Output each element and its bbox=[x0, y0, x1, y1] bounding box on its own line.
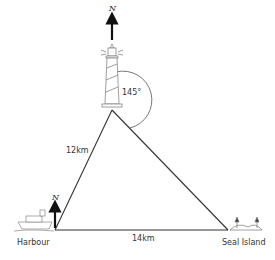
bearing-diagram: N N 145° 12km 14km Harbour Seal Island bbox=[0, 0, 275, 260]
north-label: N bbox=[109, 4, 116, 13]
edge-label-12km: 12km bbox=[66, 146, 89, 155]
diagram-canvas bbox=[0, 0, 275, 260]
island-icon bbox=[230, 217, 262, 230]
ship-icon bbox=[14, 210, 54, 231]
edge-label-14km: 14km bbox=[132, 234, 155, 243]
lighthouse-icon bbox=[101, 44, 123, 107]
edge-harbour-lighthouse bbox=[55, 110, 112, 230]
north-label: N bbox=[52, 193, 59, 202]
angle-label: 145° bbox=[122, 88, 141, 97]
seal-island-label: Seal Island bbox=[222, 238, 265, 247]
harbour-label: Harbour bbox=[17, 238, 50, 247]
edge-lighthouse-seal-island bbox=[112, 110, 228, 230]
triangle bbox=[55, 110, 228, 230]
